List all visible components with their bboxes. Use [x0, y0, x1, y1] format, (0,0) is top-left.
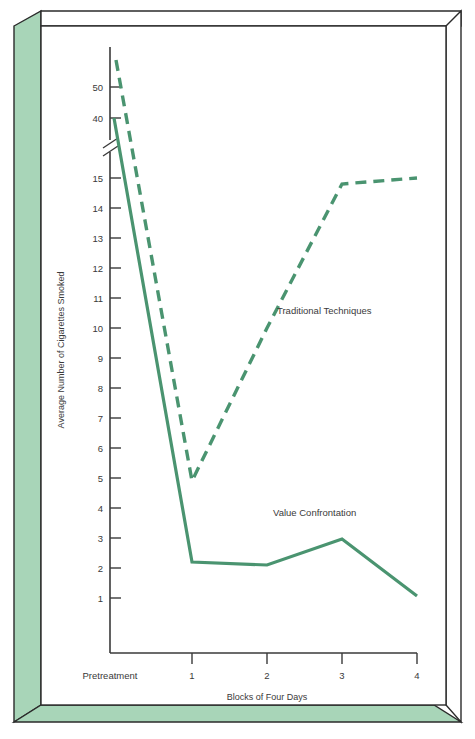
- figure-page: 50 40 15 14 13 12 11 10 9 8 7 6: [0, 0, 475, 739]
- figure-3d-frame: [0, 0, 475, 739]
- frame-right-bevel: [446, 11, 461, 722]
- frame-top-bevel: [41, 11, 461, 26]
- frame-left-panel: [14, 11, 41, 722]
- frame-bottom-panel: [14, 705, 461, 722]
- frame-inner-plate: [41, 26, 446, 705]
